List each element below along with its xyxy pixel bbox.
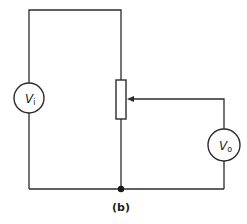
figure-caption: (b) [112,201,130,214]
circuit-diagram: Vi Vo (b) [0,0,247,224]
output-voltmeter: Vo [208,129,240,161]
wiper-arrow-icon [127,96,134,102]
input-voltage-source: Vi [14,83,44,113]
potentiometer [116,80,126,119]
junction-node [118,186,124,192]
wiper-wire [132,99,224,129]
top-left-wire [29,10,121,83]
